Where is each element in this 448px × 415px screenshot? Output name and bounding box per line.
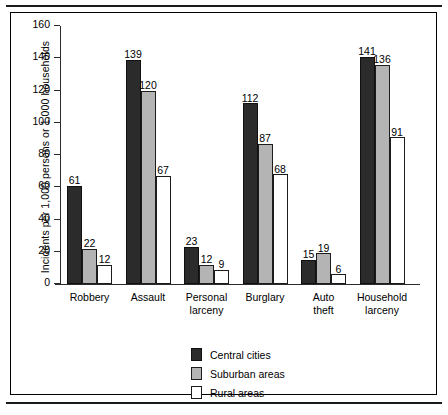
category-label-line: Personal [186,291,227,304]
y-tick-label: 60 [38,179,50,191]
category-label: Robbery [70,291,110,304]
bar[interactable]: 23 [184,247,199,284]
chart-figure: Incidents per 1,000 persons or 1,000 hou… [10,12,437,395]
y-tick-label: 20 [38,244,50,256]
bar-group: 13912067Assault [126,26,171,284]
y-tick-label: 120 [32,83,50,95]
bar[interactable]: 120 [141,91,156,285]
bar[interactable]: 9 [214,270,229,285]
category-label-line: Assault [131,291,165,304]
bar-value-label: 9 [219,259,225,270]
bar-value-label: 68 [274,164,286,175]
bar[interactable]: 141 [360,57,375,284]
legend-item[interactable]: Suburban areas [191,365,285,382]
bar-value-label: 12 [201,254,213,265]
category-label-line: theft [313,304,335,317]
bar[interactable]: 22 [82,249,97,284]
category-label: Burglary [245,291,284,304]
category-label-line: Burglary [245,291,284,304]
bar[interactable]: 12 [199,265,214,284]
bar[interactable]: 67 [156,176,171,284]
legend-item[interactable]: Rural areas [191,384,285,401]
bar[interactable]: 91 [390,137,405,284]
bar-value-label: 112 [242,93,259,104]
y-tick: 80 [54,154,60,155]
bar[interactable]: 19 [316,253,331,284]
bar-value-label: 61 [69,175,81,186]
top-divider-rule [6,5,442,7]
y-tick: 100 [54,122,60,123]
legend-item[interactable]: Central cities [191,346,285,363]
bar-group: 23129Personallarceny [184,26,229,284]
category-label: Assault [131,291,165,304]
legend-label: Suburban areas [210,368,285,380]
y-tick-label: 160 [32,18,50,30]
bar[interactable]: 136 [375,65,390,284]
y-axis-line [60,26,61,284]
bar[interactable]: 6 [331,274,346,284]
y-tick-label: 100 [32,115,50,127]
category-label: Autotheft [313,291,335,317]
category-label-line: Auto [313,291,335,304]
bar[interactable]: 112 [243,103,258,284]
category-label-line: Household [357,291,407,304]
bar-value-label: 87 [259,133,271,144]
bar-value-label: 136 [373,54,391,65]
plot-area: 020406080100120140160 612212Robbery13912… [61,26,416,284]
legend-label: Central cities [210,349,271,361]
y-tick-label: 140 [32,50,50,62]
y-tick-label: 80 [38,147,50,159]
bar[interactable]: 139 [126,60,141,284]
y-tick: 20 [54,251,60,252]
y-tick: 140 [54,57,60,58]
bar-group: 612212Robbery [67,26,112,284]
chart-legend: Central citiesSuburban areasRural areas [191,346,285,403]
bar-group: 14113691Householdlarceny [360,26,405,284]
y-tick: 0 [54,283,60,284]
bar-value-label: 12 [99,254,111,265]
bar-value-label: 23 [186,236,198,247]
bar-value-label: 91 [391,127,403,138]
y-tick-label: 40 [38,212,50,224]
y-tick-label: 0 [44,276,50,288]
category-label-line: larceny [357,304,407,317]
category-label: Householdlarceny [357,291,407,317]
category-label: Personallarceny [186,291,227,317]
bar-value-label: 19 [318,243,330,254]
bar[interactable]: 15 [301,260,316,284]
legend-swatch-central [191,348,202,361]
legend-swatch-rural [191,386,202,399]
category-label-line: larceny [186,304,227,317]
bar-value-label: 22 [84,238,96,249]
y-tick: 120 [54,90,60,91]
legend-swatch-suburban [191,367,202,380]
bar[interactable]: 87 [258,144,273,284]
legend-label: Rural areas [210,387,264,399]
y-tick: 60 [54,186,60,187]
bar-value-label: 6 [336,264,342,275]
category-label-line: Robbery [70,291,110,304]
bar[interactable]: 61 [67,186,82,284]
bar-value-label: 120 [139,80,157,91]
bar-value-label: 139 [124,49,142,60]
bar[interactable]: 12 [97,265,112,284]
y-tick: 160 [54,25,60,26]
bar[interactable]: 68 [273,174,288,284]
bar-value-label: 15 [303,249,315,260]
y-tick: 40 [54,219,60,220]
bar-group: 1128768Burglary [243,26,288,284]
x-axis-line [55,284,420,285]
bar-value-label: 67 [157,165,169,176]
bar-group: 15196Autotheft [301,26,346,284]
